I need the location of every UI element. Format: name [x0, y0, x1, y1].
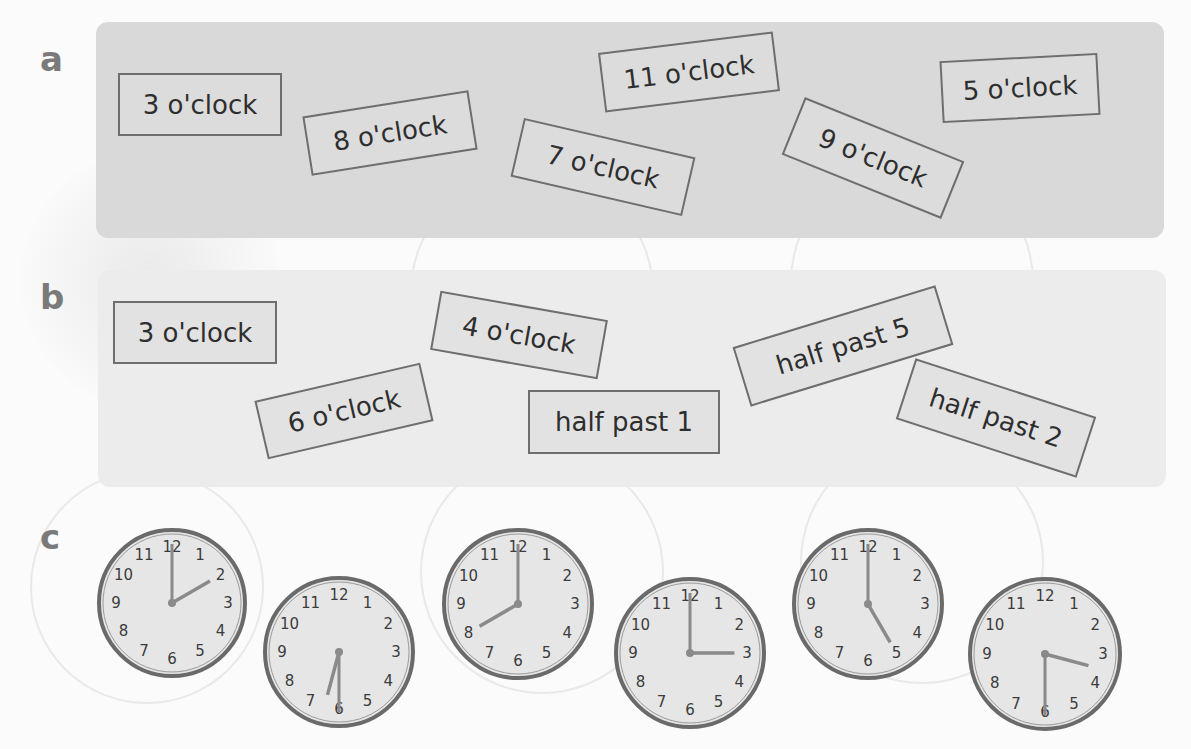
- clock-numeral: 8: [285, 672, 295, 690]
- clock-numeral: 11: [480, 546, 499, 564]
- clock-numeral: 9: [628, 644, 638, 662]
- clock-numeral: 5: [1069, 695, 1079, 713]
- clock-numeral: 12: [1035, 587, 1054, 605]
- clock-face-icon: 121234567891011: [441, 527, 595, 681]
- clock-face-icon: 121234567891011: [613, 576, 767, 730]
- analog-clock: 121234567891011: [791, 527, 945, 681]
- clock-numeral: 1: [542, 546, 552, 564]
- clock-pivot: [1041, 650, 1049, 658]
- clock-numeral: 1: [195, 546, 205, 564]
- clock-numeral: 2: [1090, 616, 1100, 634]
- clock-numeral: 7: [485, 644, 495, 662]
- clock-numeral: 1: [1069, 595, 1079, 613]
- section-letter-b: b: [40, 280, 64, 314]
- clock-numeral: 2: [563, 567, 573, 585]
- clock-numeral: 7: [835, 644, 845, 662]
- clock-numeral: 2: [735, 616, 745, 634]
- clock-numeral: 6: [685, 701, 695, 719]
- clock-numeral: 3: [742, 644, 752, 662]
- clock-numeral: 1: [363, 594, 373, 612]
- clock-numeral: 8: [990, 674, 1000, 692]
- clock-numeral: 10: [280, 615, 299, 633]
- clock-numeral: 11: [1006, 595, 1025, 613]
- clock-numeral: 4: [735, 673, 745, 691]
- clock-numeral: 6: [167, 650, 177, 668]
- clock-numeral: 11: [134, 546, 153, 564]
- clock-numeral: 10: [114, 566, 133, 584]
- clock-pivot: [335, 648, 343, 656]
- time-card[interactable]: 3 o'clock: [113, 301, 277, 364]
- clock-numeral: 1: [892, 546, 902, 564]
- clock-numeral: 3: [223, 594, 233, 612]
- analog-clock: 121234567891011: [967, 576, 1123, 732]
- clock-numeral: 9: [806, 595, 816, 613]
- clock-numeral: 7: [1011, 695, 1021, 713]
- clock-numeral: 5: [892, 644, 902, 662]
- clock-numeral: 4: [1090, 674, 1100, 692]
- clock-numeral: 8: [464, 624, 474, 642]
- clock-numeral: 4: [563, 624, 573, 642]
- clock-numeral: 10: [459, 567, 478, 585]
- clock-numeral: 11: [830, 546, 849, 564]
- clock-numeral: 4: [913, 624, 923, 642]
- clock-numeral: 9: [456, 595, 466, 613]
- clock-numeral: 11: [301, 594, 320, 612]
- clock-pivot: [168, 599, 176, 607]
- clock-pivot: [864, 600, 872, 608]
- clock-face-icon: 121234567891011: [967, 576, 1123, 732]
- time-card[interactable]: half past 1: [528, 390, 720, 454]
- analog-clock: 121234567891011: [441, 527, 595, 681]
- clock-numeral: 2: [216, 566, 226, 584]
- clock-numeral: 1: [714, 595, 724, 613]
- clock-pivot: [686, 649, 694, 657]
- section-letter-a: a: [40, 42, 63, 76]
- clock-numeral: 2: [913, 567, 923, 585]
- clock-numeral: 10: [631, 616, 650, 634]
- clock-numeral: 8: [636, 673, 646, 691]
- analog-clock: 121234567891011: [262, 575, 416, 729]
- clock-face-icon: 121234567891011: [96, 527, 248, 679]
- clock-pivot: [514, 600, 522, 608]
- analog-clock: 121234567891011: [96, 527, 248, 679]
- clock-numeral: 9: [111, 594, 121, 612]
- clock-face-icon: 121234567891011: [791, 527, 945, 681]
- clock-numeral: 7: [306, 692, 316, 710]
- clock-numeral: 4: [216, 622, 226, 640]
- clock-numeral: 8: [814, 624, 824, 642]
- clock-numeral: 4: [384, 672, 394, 690]
- clock-numeral: 10: [809, 567, 828, 585]
- clock-numeral: 3: [391, 643, 401, 661]
- clock-numeral: 8: [119, 622, 129, 640]
- clock-numeral: 5: [363, 692, 373, 710]
- clock-numeral: 6: [863, 652, 873, 670]
- clock-numeral: 9: [982, 645, 992, 663]
- clock-numeral: 5: [714, 693, 724, 711]
- clock-numeral: 5: [195, 642, 205, 660]
- clock-numeral: 2: [384, 615, 394, 633]
- clock-face-icon: 121234567891011: [262, 575, 416, 729]
- clock-numeral: 10: [985, 616, 1004, 634]
- clock-numeral: 5: [542, 644, 552, 662]
- clock-numeral: 7: [657, 693, 667, 711]
- clock-numeral: 7: [139, 642, 149, 660]
- clock-numeral: 3: [570, 595, 580, 613]
- analog-clock: 121234567891011: [613, 576, 767, 730]
- section-letter-c: c: [40, 520, 60, 554]
- clock-numeral: 3: [1098, 645, 1108, 663]
- clock-numeral: 3: [920, 595, 930, 613]
- clock-numeral: 9: [277, 643, 287, 661]
- time-card[interactable]: 3 o'clock: [118, 73, 282, 136]
- clock-numeral: 12: [329, 586, 348, 604]
- clock-numeral: 11: [652, 595, 671, 613]
- clock-numeral: 6: [513, 652, 523, 670]
- time-card[interactable]: 5 o'clock: [939, 53, 1100, 123]
